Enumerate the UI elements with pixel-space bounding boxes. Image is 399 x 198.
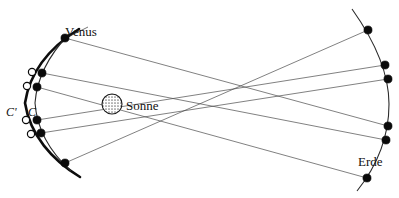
erde-label: Erde <box>358 154 383 169</box>
sun-icon <box>102 94 122 114</box>
venus-dot-3 <box>33 83 41 91</box>
venus-dot-2 <box>38 69 46 77</box>
venus-dot-5 <box>37 129 45 137</box>
earth-dot-3 <box>384 75 392 83</box>
sun-group <box>102 94 122 114</box>
earth-dot-1 <box>364 26 372 34</box>
venus-dot-6 <box>61 159 69 167</box>
venus-hollow-dot-2 <box>23 82 30 89</box>
venus-label: Venus <box>65 24 97 39</box>
diagram-root: Venus Sonne Erde C' C <box>0 0 399 198</box>
venus-sonne-erde-diagram: Venus Sonne Erde C' C <box>0 0 399 198</box>
earth-dot-4 <box>384 122 392 130</box>
chord-label: C <box>28 105 37 119</box>
earth-dot-6 <box>363 174 371 182</box>
figure-background <box>0 0 399 198</box>
earth-dot-5 <box>382 136 390 144</box>
earth-dot-2 <box>381 61 389 69</box>
venus-hollow-dot-4 <box>27 130 34 137</box>
sonne-label: Sonne <box>126 98 159 113</box>
venus-hollow-dot-1 <box>28 68 35 75</box>
chord-prime-label: C' <box>6 105 17 119</box>
